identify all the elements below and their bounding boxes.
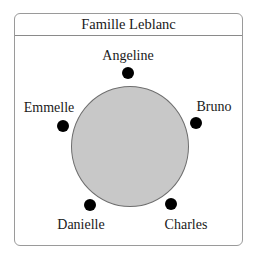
seat-label-bruno: Bruno — [197, 99, 232, 115]
seat-label-angeline: Angeline — [102, 48, 153, 64]
seat-dot-bruno — [190, 117, 202, 129]
diagram-title: Famille Leblanc — [15, 14, 242, 36]
round-table — [71, 86, 189, 207]
seat-dot-charles — [165, 198, 177, 210]
seat-label-emmelle: Emmelle — [24, 100, 75, 116]
seat-dot-angeline — [122, 67, 134, 79]
seat-label-charles: Charles — [165, 217, 208, 233]
seat-dot-emmelle — [57, 120, 69, 132]
seat-dot-danielle — [84, 199, 96, 211]
seat-label-danielle: Danielle — [57, 217, 104, 233]
